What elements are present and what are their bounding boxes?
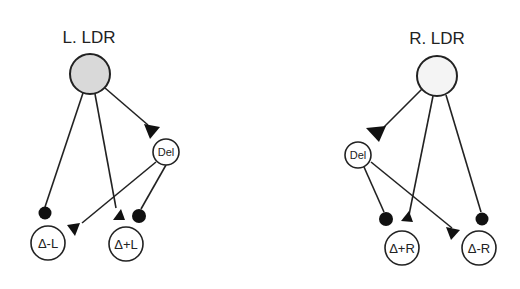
ldr-diagram: L. LDR Del Δ-L Δ+L R. LDR Del Δ+R Δ-R xyxy=(0,0,520,289)
inhibitory-dot-icon xyxy=(379,212,393,226)
edge-rldr-to-delta-plus-r xyxy=(409,96,433,215)
excitatory-triangle-icon xyxy=(446,227,460,240)
edge-lldr-to-del-l xyxy=(105,88,148,125)
l-ldr-title: L. LDR xyxy=(63,28,116,47)
excitatory-triangle-icon xyxy=(144,124,160,139)
right-network xyxy=(364,89,481,228)
excitatory-triangle-icon xyxy=(113,209,125,220)
inhibitory-dot-icon xyxy=(132,209,146,223)
edge-lldr-to-delta-minus-l xyxy=(45,93,83,207)
edge-del-to-delta-plus-r xyxy=(364,167,384,212)
del-label-right: Del xyxy=(350,149,367,161)
inhibitory-dot-icon xyxy=(476,213,489,226)
excitatory-triangle-icon xyxy=(401,211,413,222)
left-terminals xyxy=(39,124,161,236)
edge-lldr-to-delta-plus-l xyxy=(95,94,116,208)
right-terminals xyxy=(366,126,489,240)
excitatory-triangle-icon xyxy=(67,223,80,236)
del-label-left: Del xyxy=(158,146,175,158)
edge-rldr-to-del-r xyxy=(384,89,422,127)
edge-rldr-to-delta-minus-r xyxy=(446,95,481,212)
delta-minus-r-label: Δ-R xyxy=(468,241,490,256)
excitatory-triangle-icon xyxy=(366,126,386,142)
left-network xyxy=(45,88,166,223)
inhibitory-dot-icon xyxy=(39,207,52,220)
l-ldr-node xyxy=(70,54,110,94)
delta-minus-l-label: Δ-L xyxy=(38,236,58,251)
delta-plus-r-label: Δ+R xyxy=(389,241,415,256)
r-ldr-title: R. LDR xyxy=(409,29,465,48)
delta-plus-l-label: Δ+L xyxy=(114,237,138,252)
r-ldr-node xyxy=(417,56,457,96)
